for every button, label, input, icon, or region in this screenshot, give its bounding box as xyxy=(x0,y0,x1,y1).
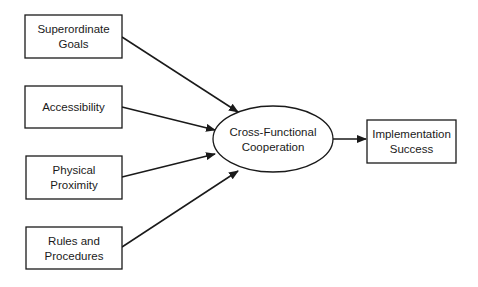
node-label-line1: Accessibility xyxy=(42,101,105,113)
edge-proximity-to-cooperation xyxy=(122,154,215,177)
node-label-line1: Implementation xyxy=(372,128,451,140)
node-implementation-success: Implementation Success xyxy=(367,120,456,163)
node-label-line1: Cross-Functional xyxy=(230,126,317,138)
node-label-line2: Proximity xyxy=(50,179,98,191)
edge-rules-to-cooperation xyxy=(122,171,238,247)
node-physical-proximity-box xyxy=(26,156,122,199)
node-label-line1: Superordinate xyxy=(37,23,109,35)
node-implementation-success-box xyxy=(367,120,456,163)
node-physical-proximity: Physical Proximity xyxy=(26,156,122,199)
node-rules-procedures: Rules and Procedures xyxy=(26,227,122,269)
flow-diagram: Superordinate Goals Accessibility Physic… xyxy=(0,0,478,287)
node-label-line2: Goals xyxy=(58,38,88,50)
node-label-line2: Cooperation xyxy=(242,141,305,153)
node-label-line1: Physical xyxy=(53,164,96,176)
node-rules-procedures-box xyxy=(26,227,122,269)
node-superordinate-goals-box xyxy=(25,15,122,58)
node-label-line2: Success xyxy=(390,143,434,155)
node-label-line1: Rules and xyxy=(48,235,100,247)
node-label-line2: Procedures xyxy=(45,250,104,262)
node-cross-functional-ellipse xyxy=(213,106,333,172)
node-superordinate-goals: Superordinate Goals xyxy=(25,15,122,58)
edge-superordinate-to-cooperation xyxy=(122,37,238,112)
edge-accessibility-to-cooperation xyxy=(122,107,215,130)
node-accessibility: Accessibility xyxy=(25,86,122,128)
node-cross-functional-cooperation: Cross-Functional Cooperation xyxy=(213,106,333,172)
